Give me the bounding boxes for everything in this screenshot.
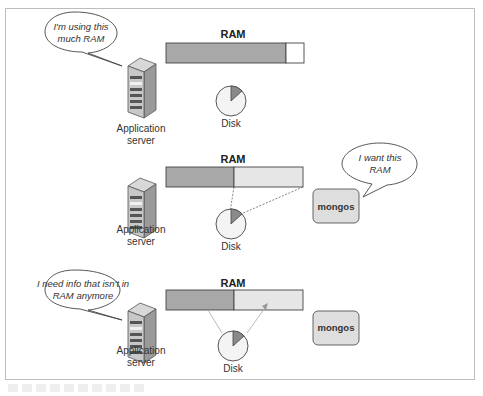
ram-free-segment: [286, 43, 304, 63]
diagram: I'm using this much RAM Application serv…: [0, 0, 483, 396]
dotted-connector: [241, 187, 303, 214]
bubble-line-1: I need info that isn't in: [37, 278, 129, 289]
bubble-line-1: I want this: [359, 152, 402, 163]
ram-title: RAM: [220, 28, 245, 40]
ram-free-segment: [234, 290, 303, 310]
disk-pie-icon: [216, 209, 246, 239]
speech-bubble: I need info that isn't in RAM anymore: [37, 270, 129, 320]
server-label-line-2: server: [127, 135, 155, 146]
ram-free-segment: [234, 167, 303, 187]
server-label-line-2: server: [127, 357, 155, 368]
disk-pie-icon: [216, 86, 246, 116]
mongos-box: mongos: [313, 189, 359, 223]
ram-used-segment: [166, 167, 234, 187]
mongos-label: mongos: [318, 201, 355, 212]
bubble-line-1: I'm using this: [53, 21, 108, 32]
figure-caption-faded: [8, 384, 148, 392]
bubble-line-2: much RAM: [58, 33, 105, 44]
disk-label: Disk: [221, 118, 241, 129]
bubble-line-2: RAM: [369, 164, 390, 175]
mongos-label: mongos: [318, 322, 355, 333]
speech-bubble: I'm using this much RAM: [45, 12, 122, 66]
connector-line: [208, 310, 222, 333]
mongos-box: mongos: [313, 311, 359, 345]
server-label-line-1: Application: [117, 345, 166, 356]
server-label-line-2: server: [127, 236, 155, 247]
server-label-line-1: Application: [117, 123, 166, 134]
dotted-connector: [230, 187, 234, 212]
panel-3: I need info that isn't in RAM anymore Ap…: [37, 270, 359, 374]
panel-2: Application server RAM Disk I want this …: [117, 143, 417, 252]
bubble-line-2: RAM anymore: [53, 290, 114, 301]
disk-pie-icon: [218, 331, 248, 361]
server-icon: [128, 58, 156, 118]
ram-title: RAM: [220, 153, 245, 165]
ram-used-segment: [166, 43, 286, 63]
disk-label: Disk: [223, 363, 243, 374]
server-label-line-1: Application: [117, 224, 166, 235]
panel-1: I'm using this much RAM Application serv…: [45, 12, 304, 146]
ram-title: RAM: [220, 277, 245, 289]
ram-used-segment: [166, 290, 234, 310]
disk-label: Disk: [221, 241, 241, 252]
